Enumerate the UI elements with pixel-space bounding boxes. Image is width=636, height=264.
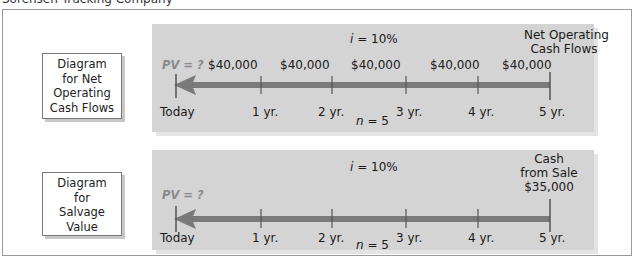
label-line: Diagram: [43, 176, 121, 191]
periods-label: n = 5: [356, 238, 389, 252]
label-line: Value: [43, 220, 121, 235]
tick-label-year-2: 2 yr.: [318, 105, 344, 119]
label-line: Operating: [43, 86, 121, 101]
timeline-panel-net-operating: i = 10% Net Operating Cash Flows PV = ? …: [152, 24, 594, 132]
tick-label-year-5: 5 yr.: [539, 105, 565, 119]
label-line: Diagram: [43, 57, 121, 72]
tick-label-year-1: 1 yr.: [252, 231, 278, 245]
diagram-label-net-operating-cash-flows: Diagram for Net Operating Cash Flows: [42, 53, 122, 119]
tick-label-year-4: 4 yr.: [468, 231, 494, 245]
label-line: Cash Flows: [43, 101, 121, 116]
tick-label-today: Today: [160, 105, 195, 119]
timeline-arrow-icon: [152, 150, 594, 250]
figure-caption: Sorensen Trucking Company: [2, 0, 173, 6]
tick-label-year-4: 4 yr.: [468, 105, 494, 119]
tick-label-year-3: 3 yr.: [396, 105, 422, 119]
label-line: for Net: [43, 72, 121, 87]
periods-label: n = 5: [356, 114, 389, 128]
tick-label-year-1: 1 yr.: [252, 105, 278, 119]
timeline-panel-salvage: i = 10% Cash from Sale $35,000 PV = ? To…: [152, 150, 594, 250]
label-line: for: [43, 191, 121, 206]
tick-label-today: Today: [160, 231, 195, 245]
diagram-label-salvage-value: Diagram for Salvage Value: [42, 172, 122, 236]
tick-label-year-5: 5 yr.: [539, 231, 565, 245]
label-line: Salvage: [43, 205, 121, 220]
tick-label-year-2: 2 yr.: [318, 231, 344, 245]
tick-label-year-3: 3 yr.: [396, 231, 422, 245]
